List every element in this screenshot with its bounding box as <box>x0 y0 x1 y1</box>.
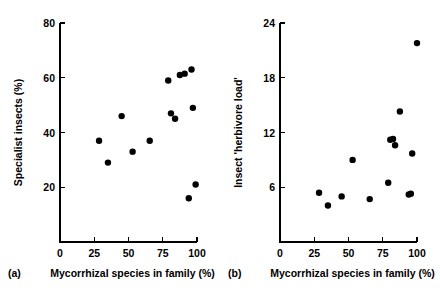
axis-lines <box>280 23 417 242</box>
x-tick-label: 100 <box>188 247 206 259</box>
data-point <box>147 138 153 144</box>
data-point <box>392 142 398 148</box>
y-tick-label: 18 <box>263 72 275 84</box>
x-tick-label: 50 <box>343 247 355 259</box>
x-tick-label: 25 <box>308 247 320 259</box>
data-point <box>349 157 355 163</box>
y-axis-title: Specialist insects (%) <box>12 79 24 186</box>
data-point <box>188 66 194 72</box>
data-point <box>186 195 192 201</box>
data-point <box>408 190 414 196</box>
data-point <box>414 40 420 46</box>
data-point <box>325 202 331 208</box>
axis-lines <box>60 23 197 242</box>
panel-a: 025507510020406080Specialist insects (%)… <box>0 0 220 291</box>
y-tick-label: 20 <box>43 181 55 193</box>
y-tick-label: 12 <box>263 127 275 139</box>
data-point <box>385 179 391 185</box>
y-tick-label: 24 <box>263 17 275 29</box>
panel-b: 02550751006121824Insect 'herbivore load'… <box>220 0 440 291</box>
x-tick-label: 75 <box>157 247 169 259</box>
data-point <box>190 105 196 111</box>
data-point <box>390 136 396 142</box>
data-point <box>316 190 322 196</box>
x-tick-label: 0 <box>57 247 63 259</box>
y-tick-label: 40 <box>43 127 55 139</box>
data-point <box>181 70 187 76</box>
figure-container: 025507510020406080Specialist insects (%)… <box>0 0 440 291</box>
data-point <box>129 148 135 154</box>
x-tick-label: 25 <box>88 247 100 259</box>
data-point <box>165 77 171 83</box>
data-point <box>338 193 344 199</box>
x-tick-label: 0 <box>277 247 283 259</box>
data-point <box>172 116 178 122</box>
panel-letter: (a) <box>8 267 21 279</box>
data-point <box>367 196 373 202</box>
y-tick-label: 60 <box>43 72 55 84</box>
data-point <box>409 150 415 156</box>
x-axis-title: Mycorrhizal species in family (%) <box>50 267 215 279</box>
y-axis-title: Insect 'herbivore load' <box>232 77 244 188</box>
x-axis-title: Mycorrhizal species in family (%) <box>270 267 435 279</box>
panel-letter: (b) <box>228 267 241 279</box>
x-tick-label: 50 <box>123 247 135 259</box>
data-point <box>118 113 124 119</box>
data-point <box>192 181 198 187</box>
scatter-plot-a: 025507510020406080Specialist insects (%)… <box>0 0 220 291</box>
y-tick-label: 6 <box>269 181 275 193</box>
data-point <box>168 110 174 116</box>
x-tick-label: 75 <box>377 247 389 259</box>
data-point <box>397 108 403 114</box>
y-tick-label: 80 <box>43 17 55 29</box>
data-point <box>105 159 111 165</box>
scatter-plot-b: 02550751006121824Insect 'herbivore load'… <box>220 0 440 291</box>
x-tick-label: 100 <box>408 247 426 259</box>
data-point <box>96 138 102 144</box>
